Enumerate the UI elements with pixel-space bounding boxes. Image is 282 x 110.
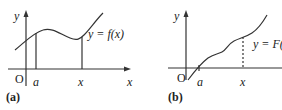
panel-a-tick-x-label: x — [78, 76, 83, 88]
panel-b-origin-label: O — [177, 72, 186, 84]
panel-b-y-axis-label: y — [174, 10, 179, 22]
panel-a-graphics — [8, 10, 131, 86]
panel-a-caption: (a) — [6, 91, 20, 103]
panel-a-y-arrow — [24, 10, 29, 17]
panel-b-curve-label: y = F(x) — [253, 38, 282, 50]
panel-a-curve-label: y = f(x) — [88, 28, 124, 40]
panel-a-x-axis-label: x — [127, 76, 132, 88]
panel-b-caption: (b) — [168, 91, 183, 103]
panel-a-x-arrow — [124, 67, 131, 72]
panel-b-tick-x-label: x — [240, 76, 245, 88]
panel-a-tick-a-label: a — [33, 76, 39, 88]
diagram-canvas — [0, 0, 282, 110]
panel-b-y-arrow — [184, 10, 189, 17]
panel-b-tick-a-label: a — [197, 76, 203, 88]
panel-a-y-axis-label: y — [14, 10, 19, 22]
panel-a-origin-label: O — [15, 73, 24, 85]
